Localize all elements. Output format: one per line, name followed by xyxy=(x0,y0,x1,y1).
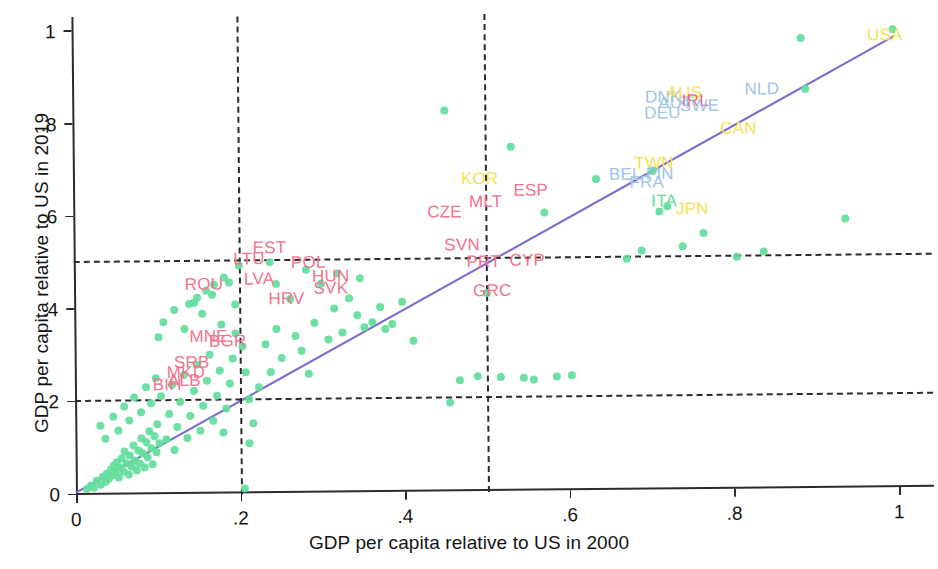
scatter-point xyxy=(141,463,149,471)
scatter-point xyxy=(353,311,361,319)
scatter-point xyxy=(540,209,548,217)
country-label-ita: ITA xyxy=(651,192,677,212)
y-tick xyxy=(65,216,73,218)
scatter-point xyxy=(255,383,263,391)
country-label-esp: ESP xyxy=(513,180,548,200)
country-label-cze: CZE xyxy=(427,203,462,223)
y-tick-label: .2 xyxy=(43,392,59,414)
scatter-point xyxy=(226,379,234,387)
plot-area: ESTLTUPOLLVAHUNSVKROUHRVMNEBGRSRBMKDALBB… xyxy=(76,18,932,495)
scatter-point xyxy=(398,298,406,306)
x-tick-label: .8 xyxy=(727,503,743,525)
scatter-point xyxy=(700,229,708,237)
y-tick xyxy=(64,30,72,32)
scatter-point xyxy=(186,412,194,420)
scatter-point xyxy=(170,446,178,454)
y-tick-label: .4 xyxy=(42,299,58,321)
scatter-point xyxy=(759,247,767,255)
country-label-bih: BIH xyxy=(153,375,182,395)
y-tick-label: .8 xyxy=(40,114,56,136)
scatter-point xyxy=(311,318,319,326)
x-tick xyxy=(405,492,407,500)
scatter-point xyxy=(130,393,138,401)
scatter-point xyxy=(733,252,741,260)
scatter-point xyxy=(200,402,208,410)
scatter-point xyxy=(446,398,454,406)
scatter-point xyxy=(242,368,250,376)
scatter-point xyxy=(278,354,286,362)
y-tick xyxy=(64,123,72,125)
scatter-point xyxy=(162,435,170,443)
scatter-point xyxy=(797,34,805,42)
scatter-point xyxy=(249,419,257,427)
scatter-point xyxy=(96,422,104,430)
scatter-point xyxy=(196,427,204,435)
scatter-point xyxy=(497,373,505,381)
scatter-point xyxy=(261,340,269,348)
scatter-point xyxy=(368,318,376,326)
scatter-point xyxy=(291,331,299,339)
scatter-point xyxy=(183,434,191,442)
scatter-point xyxy=(171,306,179,314)
scatter-point xyxy=(298,347,306,355)
scatter-point xyxy=(638,247,646,255)
y-tick-label: 0 xyxy=(49,484,60,506)
x-tick xyxy=(570,490,572,498)
y-tick-label: .6 xyxy=(41,206,57,228)
scatter-chart-figure: GDP per capita relative to US in 2000 GD… xyxy=(0,0,938,569)
scatter-point xyxy=(220,428,228,436)
country-label-lva: LVA xyxy=(244,269,274,289)
country-label-kor: KOR xyxy=(461,169,499,189)
country-label-swe: SWE xyxy=(680,95,720,115)
country-label-usa: USA xyxy=(867,25,903,45)
scatter-point xyxy=(124,470,132,478)
country-label-fra: FRA xyxy=(629,172,664,192)
scatter-point xyxy=(519,374,527,382)
scatter-point xyxy=(360,323,368,331)
scatter-point xyxy=(102,434,110,442)
scatter-point xyxy=(149,461,157,469)
country-label-prt: PRT xyxy=(466,252,500,272)
scatter-point xyxy=(623,255,631,263)
country-label-bgr: BGR xyxy=(209,331,247,351)
scatter-point xyxy=(114,427,122,435)
scatter-point xyxy=(246,395,254,403)
country-label-grc: GRC xyxy=(473,281,512,301)
country-label-jpn: JPN xyxy=(676,199,709,219)
scatter-point xyxy=(213,391,221,399)
scatter-point xyxy=(474,372,482,380)
y-tick xyxy=(68,494,76,496)
scatter-point xyxy=(176,398,184,406)
x-tick xyxy=(734,489,736,497)
scatter-point xyxy=(198,310,206,318)
y-tick xyxy=(67,401,75,403)
scatter-point xyxy=(568,371,576,379)
x-tick-label: .4 xyxy=(397,506,413,528)
x-tick xyxy=(241,493,243,501)
scatter-point xyxy=(530,375,538,383)
scatter-point xyxy=(152,449,160,457)
scatter-point xyxy=(339,328,347,336)
x-axis-title: GDP per capita relative to US in 2000 xyxy=(0,532,938,554)
scatter-point xyxy=(216,366,224,374)
scatter-point xyxy=(324,336,332,344)
country-label-mlt: MLT xyxy=(469,191,503,211)
scatter-point xyxy=(440,107,448,115)
scatter-point xyxy=(330,304,338,312)
scatter-point xyxy=(142,383,150,391)
scatter-point xyxy=(159,318,167,326)
scatter-point xyxy=(133,466,141,474)
scatter-point xyxy=(185,300,193,308)
scatter-point xyxy=(592,175,600,183)
scatter-point xyxy=(181,325,189,333)
scatter-point xyxy=(356,274,364,282)
scatter-point xyxy=(165,410,173,418)
country-label-svk: SVK xyxy=(313,279,348,299)
scatter-point xyxy=(109,413,117,421)
scatter-point xyxy=(305,369,313,377)
scatter-point xyxy=(376,303,384,311)
scatter-point xyxy=(266,258,274,266)
scatter-point xyxy=(173,423,181,431)
scatter-point xyxy=(154,333,162,341)
country-label-deu: DEU xyxy=(644,103,681,123)
